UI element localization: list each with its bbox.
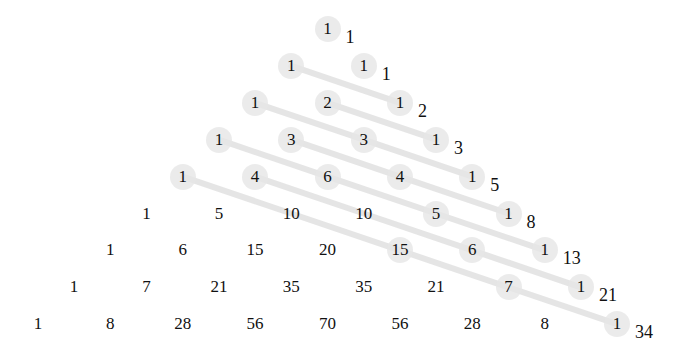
triangle-cell: 1 — [54, 273, 94, 301]
diagonal-line — [219, 140, 545, 251]
triangle-cell: 8 — [90, 310, 130, 338]
triangle-cell: 5 — [416, 200, 456, 228]
diagonal-line — [255, 177, 581, 288]
triangle-cell: 1 — [452, 163, 492, 191]
triangle-cell: 1 — [18, 310, 58, 338]
triangle-cell: 70 — [308, 310, 348, 338]
triangle-cell: 1 — [597, 310, 637, 338]
pascal-triangle-diagram: 1111211331146411510105116152015611721353… — [0, 0, 691, 357]
fibonacci-sum-label: 5 — [490, 175, 499, 195]
fibonacci-sum-label: 1 — [346, 27, 355, 47]
triangle-cell: 56 — [380, 310, 420, 338]
triangle-cell: 35 — [271, 273, 311, 301]
triangle-cell: 7 — [127, 273, 167, 301]
fibonacci-sum-label: 21 — [599, 285, 617, 305]
triangle-cell: 20 — [308, 236, 348, 264]
fibonacci-sum-label: 13 — [563, 248, 581, 268]
triangle-cell: 5 — [199, 200, 239, 228]
triangle-cell: 4 — [235, 163, 275, 191]
triangle-cell: 1 — [235, 89, 275, 117]
triangle-cell: 1 — [561, 273, 601, 301]
triangle-cell: 6 — [163, 236, 203, 264]
triangle-cell: 28 — [452, 310, 492, 338]
triangle-cell: 3 — [271, 126, 311, 154]
fibonacci-sum-label: 2 — [418, 101, 427, 121]
triangle-cell: 7 — [489, 273, 529, 301]
triangle-cell: 1 — [127, 200, 167, 228]
fibonacci-sum-label: 8 — [527, 212, 536, 232]
triangle-cell: 6 — [452, 236, 492, 264]
triangle-cell: 1 — [199, 126, 239, 154]
triangle-cell: 1 — [271, 52, 311, 80]
triangle-cell: 35 — [344, 273, 384, 301]
fibonacci-sum-label: 34 — [635, 322, 653, 342]
triangle-cell: 1 — [525, 236, 565, 264]
triangle-cell: 4 — [380, 163, 420, 191]
triangle-cell: 1 — [416, 126, 456, 154]
triangle-cell: 3 — [344, 126, 384, 154]
triangle-cell: 21 — [416, 273, 456, 301]
triangle-cell: 10 — [344, 200, 384, 228]
triangle-cell: 56 — [235, 310, 275, 338]
triangle-cell: 28 — [163, 310, 203, 338]
triangle-cell: 1 — [344, 52, 384, 80]
triangle-cell: 1 — [90, 236, 130, 264]
triangle-cell: 1 — [380, 89, 420, 117]
fibonacci-sum-label: 3 — [454, 138, 463, 158]
triangle-cell: 1 — [163, 163, 203, 191]
triangle-cell: 2 — [308, 89, 348, 117]
triangle-cell: 15 — [380, 236, 420, 264]
triangle-cell: 15 — [235, 236, 275, 264]
triangle-cell: 1 — [308, 15, 348, 43]
triangle-cell: 10 — [271, 200, 311, 228]
triangle-cell: 8 — [525, 310, 565, 338]
triangle-cell: 21 — [199, 273, 239, 301]
triangle-cell: 6 — [308, 163, 348, 191]
triangle-cell: 1 — [489, 200, 529, 228]
fibonacci-sum-label: 1 — [382, 64, 391, 84]
